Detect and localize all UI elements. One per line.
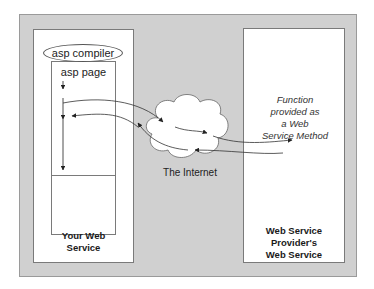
provider-web-service-label: Web Service Provider's Web Service [243, 225, 345, 261]
right-title-line1: Web Service [243, 225, 345, 237]
function-line1: Function [252, 94, 338, 106]
left-title-line2: Service [33, 242, 134, 254]
function-description-label: Function provided as a Web Service Metho… [252, 94, 338, 142]
asp-page-box: asp page [51, 61, 116, 235]
function-line3: a Web [252, 118, 338, 130]
left-title-line1: Your Web [33, 230, 134, 242]
right-title-line2: Provider's [243, 237, 345, 249]
function-line4: Service Method [252, 130, 338, 142]
asp-page-divider [52, 175, 115, 176]
internet-label: The Internet [150, 167, 230, 178]
right-title-line3: Web Service [243, 249, 345, 261]
asp-page-label: asp page [52, 66, 115, 78]
your-web-service-label: Your Web Service [33, 230, 134, 254]
asp-compiler-ellipse: asp compiler [43, 44, 123, 62]
function-line2: provided as [252, 106, 338, 118]
